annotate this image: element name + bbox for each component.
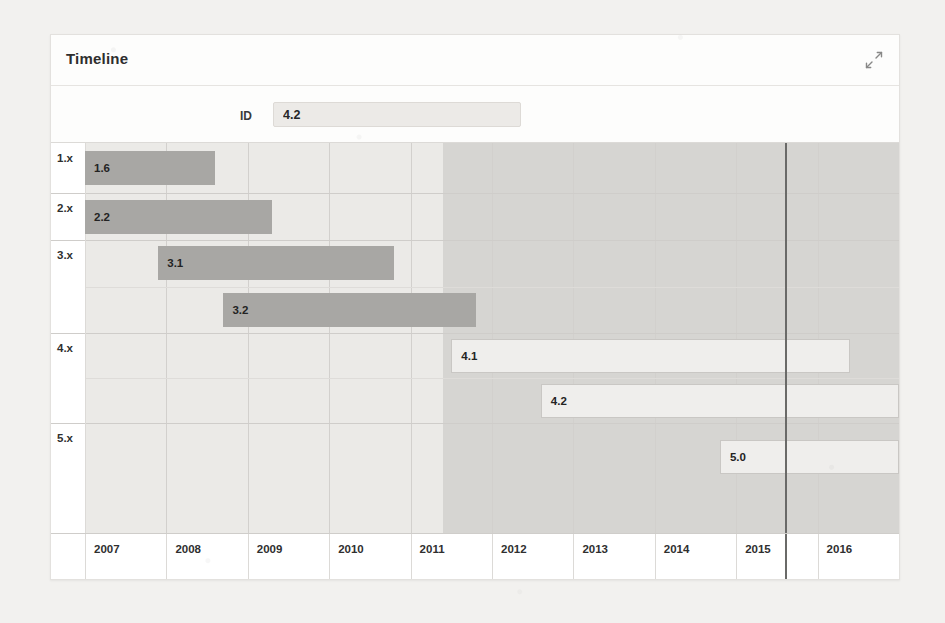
card-header: Timeline [51,35,899,86]
gantt-bar-label: 2.2 [85,211,110,223]
axis-tick [492,534,493,579]
axis-tick-label-2008: 2008 [175,543,201,555]
id-field-label: ID [240,109,252,123]
axis-tick [736,534,737,579]
gantt-row-label-3-x: 3.x [57,249,73,261]
today-marker-line-axis [785,534,787,579]
gantt-bar-label: 1.6 [85,162,110,174]
gantt-bar-3-1[interactable]: 3.1 [158,246,394,280]
filter-toolbar: ID [51,86,899,142]
gantt-row-label-2-x: 2.x [57,202,73,214]
axis-tick-label-2010: 2010 [338,543,364,555]
gantt-bar-1-6[interactable]: 1.6 [85,151,215,185]
gantt-bar-label: 5.0 [721,451,746,463]
axis-tick-label-2015: 2015 [745,543,771,555]
gantt-row-label-4-x: 4.x [57,342,73,354]
today-marker-line [785,143,787,579]
gantt-chart: 1.62.23.13.24.14.25.0 1.x2.x3.x4.x5.x 20… [51,142,899,579]
axis-tick-label-2014: 2014 [664,543,690,555]
gridline-lane [85,287,899,288]
gantt-bar-label: 3.1 [158,257,183,269]
axis-tick-label-2013: 2013 [582,543,608,555]
axis-tick [85,534,86,579]
gantt-x-axis: 2007200820092010201120122013201420152016 [51,533,899,579]
gantt-plot-area: 1.62.23.13.24.14.25.0 [85,143,899,579]
gantt-bar-2-2[interactable]: 2.2 [85,200,272,234]
gridline-vertical [329,143,330,534]
axis-tick-label-2009: 2009 [257,543,283,555]
gantt-bar-4-2[interactable]: 4.2 [541,384,899,418]
axis-tick [411,534,412,579]
axis-tick [573,534,574,579]
axis-tick-label-2016: 2016 [827,543,853,555]
axis-tick [329,534,330,579]
gantt-row-label-column: 1.x2.x3.x4.x5.x [51,143,86,579]
axis-tick [818,534,819,579]
gridline-horizontal [85,423,899,424]
gridline-horizontal [51,240,85,241]
gridline-horizontal [85,333,899,334]
expand-arrows-icon[interactable] [863,49,885,71]
gantt-bar-4-1[interactable]: 4.1 [451,339,850,373]
gridline-horizontal [85,240,899,241]
gridline-horizontal [85,193,899,194]
gantt-row-label-1-x: 1.x [57,152,73,164]
gridline-horizontal [51,333,85,334]
gantt-bar-label: 4.2 [542,395,567,407]
gridline-horizontal [51,193,85,194]
axis-tick [166,534,167,579]
axis-tick-label-2012: 2012 [501,543,527,555]
gridline-lane [85,378,899,379]
gantt-bar-label: 4.1 [452,350,477,362]
axis-tick-label-2007: 2007 [94,543,120,555]
gridline-horizontal [51,423,85,424]
gantt-row-label-5-x: 5.x [57,432,73,444]
gantt-bar-5-0[interactable]: 5.0 [720,440,899,474]
axis-tick-label-2011: 2011 [420,543,445,555]
page-title: Timeline [66,50,128,67]
gantt-bar-label: 3.2 [223,304,248,316]
gridline-vertical [411,143,412,534]
id-input[interactable] [273,102,521,127]
gantt-bar-3-2[interactable]: 3.2 [223,293,475,327]
timeline-card: Timeline ID 1.62.23.13.24.14.25.0 1.x2.x… [50,34,900,580]
axis-tick [248,534,249,579]
axis-tick [655,534,656,579]
